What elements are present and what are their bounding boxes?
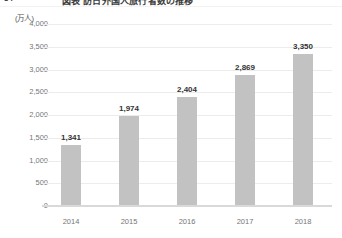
gridline: [42, 70, 332, 71]
gridline: [42, 206, 332, 207]
bar-value-label: 1,341: [44, 133, 98, 142]
x-axis-tick-label: 2017: [218, 217, 272, 226]
bar-value-label: 2,404: [160, 85, 214, 94]
x-axis-tick-label: 2014: [44, 217, 98, 226]
bar: [61, 145, 81, 206]
document-header: 34 図表 訪日外国人旅行者数の推移: [0, 0, 342, 7]
x-axis-tick-label: 2015: [102, 217, 156, 226]
bar-value-label: 2,869: [218, 63, 272, 72]
bar: [177, 97, 197, 206]
bar: [119, 116, 139, 206]
bar-value-label: 3,350: [276, 42, 330, 51]
x-axis-tick-label: 2018: [276, 217, 330, 226]
bar: [293, 54, 313, 206]
bar: [235, 75, 255, 206]
x-axis-line: [42, 205, 332, 206]
bar-chart: (万人) 4,0003,5003,0002,5002,0001,5001,000…: [0, 7, 342, 238]
plot-area: [42, 24, 332, 206]
header-number: 34: [4, 0, 13, 3]
bar-value-label: 1,974: [102, 104, 156, 113]
gridline: [42, 24, 332, 25]
x-axis-tick-label: 2016: [160, 217, 214, 226]
